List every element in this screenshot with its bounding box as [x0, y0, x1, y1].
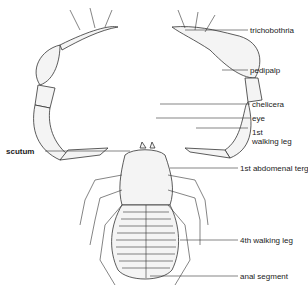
label-pedipalp: pedipalp — [250, 66, 280, 75]
label-scutum: scutum — [6, 147, 34, 156]
carapace — [120, 150, 173, 205]
label-eye: eye — [252, 114, 265, 123]
label-1st-walking-leg-line1: 1st — [252, 128, 263, 137]
label-chelicera: chelicera — [252, 100, 284, 109]
left-pedipalp-chela — [36, 45, 60, 85]
label-4th-walking-leg: 4th walking leg — [240, 236, 293, 245]
label-trichobothria: trichobothria — [250, 26, 294, 35]
pseudoscorpion-diagram: trichobothria pedipalp chelicera eye 1st… — [0, 0, 308, 293]
label-anal-segment: anal segment — [240, 272, 288, 281]
label-1st-abdominal-tergite: 1st abdomenal tergite — [240, 164, 308, 173]
pseudoscorpion-drawing — [0, 0, 308, 293]
label-1st-walking-leg-line2: walking leg — [252, 137, 292, 146]
